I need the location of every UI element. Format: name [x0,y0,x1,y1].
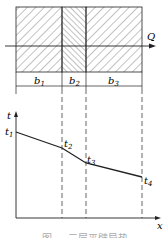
figure-caption: 图 — 三层平壁导热 [30,230,140,238]
arrow-head-icon [149,44,156,49]
x-axis-label: x [157,220,163,231]
layer-2 [62,7,86,72]
flow-label: Q [147,31,155,42]
layer-1 [16,7,62,72]
layer-3 [86,7,142,72]
y-arrow-icon [14,111,18,117]
wall-layers [16,7,142,72]
boundary-dashes [62,97,142,218]
point-label-t4: t4 [144,175,153,188]
y-axis-label: t [7,110,12,121]
point-label-t1: t1 [5,126,14,139]
point-label-t2: t2 [64,138,73,151]
temperature-profile [16,132,142,177]
point-label-t3: t3 [87,154,96,167]
three-layer-wall-diagram: Q b1 b2 b3 t x t1 t2 t3 t4 [0,0,166,238]
